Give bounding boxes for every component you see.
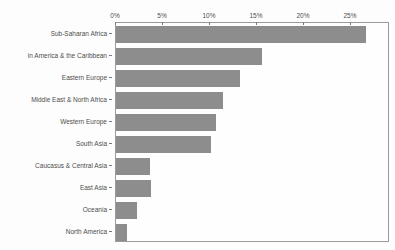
category-row: in America & the Caribbean (0, 44, 112, 66)
bar-0 (116, 26, 366, 43)
bar-8 (116, 202, 137, 219)
category-row: Western Europe (0, 110, 112, 132)
x-axis-tick-mark (256, 22, 257, 25)
bar-7 (116, 180, 151, 197)
x-axis-tick-label: 20% (296, 12, 309, 19)
x-axis-tick-label: 25% (343, 12, 356, 19)
category-row: Eastern Europe (0, 66, 112, 88)
category-label: Caucasus & Central Asia (35, 162, 107, 169)
y-axis-tick-mark (109, 121, 112, 122)
category-label: South Asia (76, 140, 107, 147)
category-label: Eastern Europe (62, 74, 107, 81)
x-axis-tick-mark (115, 22, 116, 25)
y-axis-tick-mark (109, 143, 112, 144)
bar-3 (116, 92, 223, 109)
bar-5 (116, 136, 211, 153)
category-row: North America (0, 220, 112, 242)
category-label: Oceania (83, 206, 107, 213)
category-label: Middle East & North Africa (31, 96, 107, 103)
category-row: South Asia (0, 132, 112, 154)
x-axis-tick-mark (303, 22, 304, 25)
y-axis-tick-mark (109, 165, 112, 166)
category-row: Sub-Saharan Africa (0, 22, 112, 44)
bar-chart: 0%5%10%15%20%25% Sub-Saharan Africain Am… (0, 0, 395, 250)
category-label: East Asia (80, 184, 107, 191)
category-label: Western Europe (60, 118, 107, 125)
y-axis-tick-mark (109, 77, 112, 78)
y-axis-tick-mark (109, 209, 112, 210)
x-axis-tick-label: 10% (202, 12, 215, 19)
y-axis-tick-mark (109, 187, 112, 188)
category-label: Sub-Saharan Africa (51, 30, 107, 37)
bar-9 (116, 224, 127, 241)
x-axis-tick-label: 5% (157, 12, 166, 19)
x-axis-tick-mark (162, 22, 163, 25)
bar-6 (116, 158, 150, 175)
category-label: in America & the Caribbean (28, 52, 107, 59)
category-row: Oceania (0, 198, 112, 220)
y-axis-tick-mark (109, 231, 112, 232)
category-row: Middle East & North Africa (0, 88, 112, 110)
y-axis-tick-mark (109, 55, 112, 56)
x-axis-tick-label: 0% (110, 12, 119, 19)
y-axis-tick-mark (109, 99, 112, 100)
x-axis-tick-label: 15% (249, 12, 262, 19)
bar-2 (116, 70, 240, 87)
bar-4 (116, 114, 216, 131)
y-axis-tick-mark (109, 33, 112, 34)
plot-area (115, 22, 389, 242)
category-label: North America (66, 228, 107, 235)
x-axis-tick-mark (350, 22, 351, 25)
category-row: Caucasus & Central Asia (0, 154, 112, 176)
category-row: East Asia (0, 176, 112, 198)
bar-1 (116, 48, 262, 65)
x-axis-tick-mark (209, 22, 210, 25)
